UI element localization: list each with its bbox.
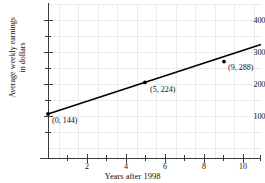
- y-tick-50: [45, 132, 51, 133]
- data-point-label-2: (9, 288): [228, 64, 253, 72]
- gridline-horizontal: [48, 132, 261, 133]
- x-tick-1: [67, 155, 68, 161]
- gridline-horizontal: [48, 4, 261, 5]
- gridline-vertical: [195, 4, 196, 158]
- gridline-horizontal: [48, 148, 261, 149]
- gridline-horizontal: [48, 100, 261, 101]
- y-tick-label: 200: [239, 81, 265, 89]
- gridline-vertical: [234, 4, 235, 158]
- x-tick-3: [106, 155, 107, 161]
- line-chart: 400 300 200 100 2 4 6 8 10 (0, 144) (5, …: [0, 0, 265, 183]
- y-tick-200: [44, 84, 53, 85]
- y-tick-400: [44, 20, 53, 21]
- x-tick-label: 4: [118, 163, 134, 171]
- y-axis-line: [48, 3, 49, 159]
- y-tick-300: [44, 52, 53, 53]
- gridline-horizontal: [48, 36, 261, 37]
- gridline-horizontal: [48, 52, 261, 53]
- x-tick-label: 2: [79, 163, 95, 171]
- y-axis-title-line1: Average weekly earnings: [8, 17, 17, 98]
- gridline-vertical: [59, 4, 60, 158]
- gridline-vertical: [137, 4, 138, 158]
- chart-gridlines: [48, 4, 261, 158]
- gridline-horizontal: [48, 116, 261, 117]
- data-point-label-0: (0, 144): [52, 117, 77, 125]
- gridline-vertical: [98, 4, 99, 158]
- x-tick-label: 8: [196, 163, 212, 171]
- x-tick-11: [260, 155, 261, 161]
- x-tick-9: [223, 155, 224, 161]
- x-tick-7: [184, 155, 185, 161]
- y-tick-350: [45, 36, 51, 37]
- y-tick-label: 400: [239, 17, 265, 25]
- data-point-label-1: (5, 224): [150, 86, 175, 94]
- gridline-vertical: [176, 4, 177, 158]
- x-tick-5: [145, 155, 146, 161]
- x-tick-label: 6: [157, 163, 173, 171]
- y-tick-label: 300: [239, 49, 265, 57]
- gridline-vertical: [156, 4, 157, 158]
- y-axis-title: Average weekly earnings in dollars: [8, 3, 27, 113]
- x-axis-title: Years after 1998: [0, 172, 265, 181]
- y-tick-label: 100: [239, 113, 265, 121]
- y-tick-250: [45, 68, 51, 69]
- gridline-vertical: [78, 4, 79, 158]
- gridline-horizontal: [48, 20, 261, 21]
- gridline-vertical: [215, 4, 216, 158]
- gridline-vertical: [117, 4, 118, 158]
- x-axis-line: [40, 158, 261, 159]
- y-tick-150: [45, 100, 51, 101]
- x-tick-label: 10: [235, 163, 251, 171]
- y-axis-title-line2: in dollars: [17, 43, 26, 73]
